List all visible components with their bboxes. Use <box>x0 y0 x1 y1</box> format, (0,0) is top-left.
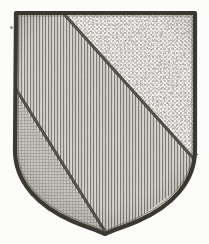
image-canvas: Heraldic Shield <box>0 0 209 244</box>
ink-speck <box>10 26 13 29</box>
heraldic-shield-figure <box>0 0 209 244</box>
shield-drawing <box>0 0 209 244</box>
